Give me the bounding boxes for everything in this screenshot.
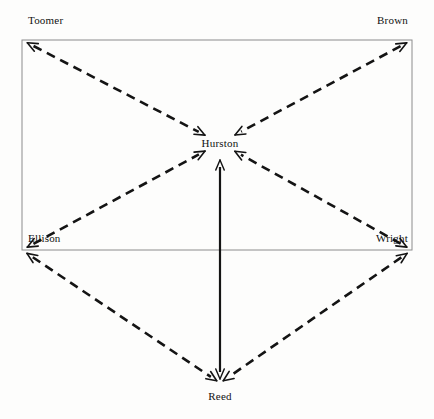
edge-line (33, 154, 198, 243)
arrow-head (194, 134, 205, 135)
node-label-toomer: Toomer (28, 15, 63, 26)
node-label-ellison: Ellison (28, 233, 61, 244)
arrow-head (27, 43, 38, 44)
node-label-reed: Reed (208, 391, 231, 402)
edge-line (33, 257, 211, 377)
edge-toomer-hurston (27, 43, 205, 135)
edge-ellison-reed (27, 253, 217, 380)
edge-line (34, 46, 199, 132)
edge-line (229, 257, 401, 376)
edge-layer (27, 43, 407, 381)
node-label-hurston: Hurston (202, 138, 239, 149)
node-label-wright: Wright (376, 233, 408, 244)
edge-line (241, 155, 401, 244)
edge-line (241, 46, 400, 132)
edge-brown-hurston (235, 43, 407, 135)
edge-wright-reed (223, 253, 407, 380)
diagram-canvas (0, 0, 434, 419)
edge-hurston-reed (216, 160, 225, 379)
node-label-brown: Brown (377, 15, 408, 26)
network-diagram: ToomerBrownHurstonEllisonWrightReed (0, 0, 434, 419)
